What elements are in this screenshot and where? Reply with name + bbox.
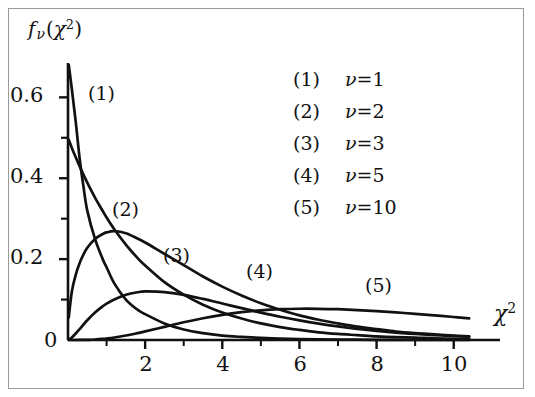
y-axis-label-close-paren: ): [74, 17, 82, 41]
legend-tag: (1): [293, 68, 345, 90]
legend-equals-sign: =: [357, 68, 373, 90]
legend-equals-sign: =: [357, 164, 373, 186]
legend-row: (4)ν=5: [293, 164, 397, 189]
x-tick-label: 2: [139, 352, 152, 376]
legend-nu-symbol: ν: [345, 164, 357, 186]
legend: (1)ν=1(2)ν=2(3)ν=3(4)ν=5(5)ν=10: [293, 68, 397, 221]
legend-nu-symbol: ν: [345, 132, 357, 154]
legend-value: 3: [372, 132, 384, 154]
chi-squared-density-figure: fν(χ2) χ2 0.60.40.20246810 (1)(2)(3)(4)(…: [0, 0, 535, 397]
y-tick-label: 0.4: [10, 164, 43, 188]
curve-tag: (5): [365, 274, 392, 296]
legend-value: 5: [372, 164, 384, 186]
legend-tag: (3): [293, 132, 345, 154]
legend-definition: ν=10: [345, 196, 397, 218]
y-axis-label: fν(χ2): [28, 17, 82, 42]
legend-row: (1)ν=1: [293, 68, 397, 93]
x-axis-label-exponent: 2: [507, 300, 516, 316]
legend-value: 10: [372, 196, 396, 218]
x-tick-label: 10: [441, 352, 468, 376]
x-tick-label: 4: [216, 352, 229, 376]
legend-value: 1: [372, 68, 384, 90]
y-tick-label: 0.2: [10, 245, 43, 269]
legend-row: (5)ν=10: [293, 196, 397, 221]
x-tick-label: 6: [293, 352, 306, 376]
x-axis-label: χ2: [494, 300, 516, 326]
legend-value: 2: [372, 100, 384, 122]
legend-nu-symbol: ν: [345, 196, 357, 218]
curve-tag: (3): [163, 244, 190, 266]
curve-tag: (4): [246, 260, 273, 282]
legend-equals-sign: =: [357, 132, 373, 154]
legend-definition: ν=1: [345, 68, 385, 90]
y-tick-label: 0: [44, 328, 57, 352]
legend-nu-symbol: ν: [345, 100, 357, 122]
legend-tag: (5): [293, 196, 345, 218]
legend-definition: ν=2: [345, 100, 385, 122]
x-tick-label: 8: [371, 352, 384, 376]
density-curve: [69, 291, 469, 339]
curve-tag: (2): [112, 198, 139, 220]
legend-equals-sign: =: [357, 100, 373, 122]
legend-definition: ν=5: [345, 164, 385, 186]
legend-equals-sign: =: [357, 196, 373, 218]
legend-row: (3)ν=3: [293, 132, 397, 157]
legend-definition: ν=3: [345, 132, 385, 154]
legend-tag: (2): [293, 100, 345, 122]
y-axis-label-nu: ν: [35, 26, 46, 42]
legend-nu-symbol: ν: [345, 68, 357, 90]
curve-tag: (1): [88, 82, 115, 104]
x-axis-label-chi: χ: [494, 301, 507, 326]
y-axis-label-exponent: 2: [66, 17, 74, 32]
y-axis-label-open-paren: (: [46, 17, 54, 41]
y-tick-label: 0.6: [10, 83, 43, 107]
legend-row: (2)ν=2: [293, 100, 397, 125]
legend-tag: (4): [293, 164, 345, 186]
plot-canvas: [0, 0, 535, 397]
y-axis-label-chi: χ: [54, 17, 66, 41]
